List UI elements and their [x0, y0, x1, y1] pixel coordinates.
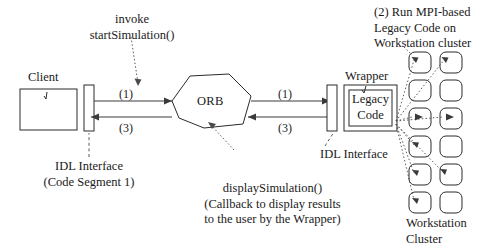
cluster-line-2: Cluster [406, 232, 467, 247]
mpi-line-3: Workstation cluster [374, 36, 471, 52]
arrowhead-invoke-leader [135, 79, 142, 87]
invoke-line-1: invoke [72, 12, 192, 28]
step-label-1-right: (1) [278, 87, 292, 102]
arrowhead-reply-orb-right [248, 114, 256, 121]
workstation-node[interactable] [440, 80, 462, 101]
dispatch-leader [396, 124, 414, 200]
idl-left-line-2: (Code Segment 1) [19, 175, 159, 191]
display-line-3: to the user by the Wrapper) [185, 212, 360, 228]
invoke-line-2: startSimulation() [72, 28, 192, 44]
annotation-idl-left: IDL Interface (Code Segment 1) [19, 159, 159, 190]
workstation-node[interactable] [440, 108, 462, 129]
wrapper-label: Wrapper [345, 69, 388, 85]
mpi-line-1: (2) Run MPI-based [374, 5, 471, 21]
arrowhead-request-orb-left [164, 98, 172, 105]
workstation-node[interactable] [440, 52, 462, 73]
step-label-3-left: (3) [119, 121, 133, 136]
cluster-line-1: Workstation [406, 216, 467, 232]
workstation-cluster-label: Workstation Cluster [406, 216, 467, 247]
workstation-node[interactable] [409, 164, 431, 185]
leader-display-simulation [210, 124, 234, 150]
annotation-idl-right: IDL Interface [320, 147, 388, 163]
idl-interface-bar-left[interactable] [84, 85, 94, 131]
workstation-node[interactable] [409, 52, 431, 73]
workstation-node[interactable] [440, 136, 462, 157]
leader-idl-right [325, 132, 334, 146]
step-label-3-right: (3) [278, 121, 292, 136]
legacy-code-label: Legacy Code [349, 92, 392, 123]
legacy-code-line-2: Code [349, 108, 392, 124]
annotation-mpi-run: (2) Run MPI-based Legacy Code on Worksta… [374, 5, 471, 52]
legacy-code-line-1: Legacy [349, 92, 392, 108]
display-line-2: (Callback to display results [185, 197, 360, 213]
step-label-1-left: (1) [119, 87, 133, 102]
client-label: Client [28, 70, 59, 86]
workstation-cluster-group [409, 52, 462, 213]
workstation-node[interactable] [409, 80, 431, 101]
workstation-node[interactable] [440, 164, 462, 185]
idl-left-line-1: IDL Interface [19, 159, 159, 175]
idl-interface-bar-right[interactable] [327, 85, 337, 131]
leader-invoke-start-simulation [131, 37, 138, 83]
orb-label: ORB [197, 94, 224, 110]
workstation-node[interactable] [440, 192, 462, 213]
display-line-1: displaySimulation() [185, 181, 360, 197]
workstation-node[interactable] [409, 136, 431, 157]
annotation-display-simulation: displaySimulation() (Callback to display… [185, 181, 360, 228]
workstation-node[interactable] [409, 108, 431, 129]
client-box[interactable] [20, 89, 77, 130]
annotation-invoke: invoke startSimulation() [72, 12, 192, 43]
workstation-node[interactable] [409, 192, 431, 213]
mpi-line-2: Legacy Code on [374, 21, 471, 37]
